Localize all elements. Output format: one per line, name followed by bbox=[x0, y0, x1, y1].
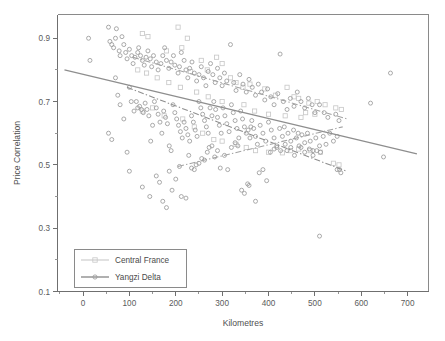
data-point bbox=[308, 139, 312, 143]
x-axis-title: Kilometres bbox=[223, 318, 264, 328]
data-point bbox=[318, 150, 322, 154]
data-point bbox=[199, 58, 203, 62]
data-point bbox=[151, 123, 155, 127]
data-point bbox=[227, 130, 231, 134]
data-point bbox=[272, 136, 276, 140]
data-point bbox=[195, 90, 199, 94]
data-point bbox=[229, 145, 233, 149]
data-point bbox=[161, 54, 165, 58]
data-point bbox=[190, 114, 194, 118]
data-point bbox=[122, 43, 126, 47]
x-tick-label: 200 bbox=[169, 299, 183, 308]
data-point bbox=[129, 100, 133, 104]
chart-figure: 0.10.30.50.70.9 0100200300400500600700 C… bbox=[0, 0, 445, 341]
data-point bbox=[244, 145, 248, 149]
data-point bbox=[248, 136, 252, 140]
data-point bbox=[220, 84, 224, 88]
y-tick-label: 0.5 bbox=[39, 161, 51, 170]
data-point bbox=[201, 131, 205, 135]
data-point bbox=[250, 119, 254, 123]
data-point bbox=[173, 63, 177, 67]
y-tick-label: 0.3 bbox=[39, 224, 51, 233]
y-axis: 0.10.30.50.70.9 bbox=[39, 34, 58, 296]
data-point bbox=[267, 120, 271, 124]
data-point bbox=[233, 119, 237, 123]
data-point bbox=[154, 174, 158, 178]
data-point bbox=[146, 35, 150, 39]
y-tick-label: 0.7 bbox=[39, 98, 51, 107]
x-tick-label: 400 bbox=[262, 299, 276, 308]
data-point bbox=[299, 115, 303, 119]
data-point bbox=[171, 54, 175, 58]
data-point bbox=[127, 47, 131, 51]
data-point bbox=[146, 49, 150, 53]
data-point bbox=[257, 171, 261, 175]
data-point bbox=[139, 54, 143, 58]
data-point bbox=[175, 117, 179, 121]
data-point bbox=[313, 111, 317, 115]
data-point bbox=[107, 25, 111, 29]
data-point bbox=[190, 60, 194, 64]
data-point bbox=[204, 125, 208, 129]
data-point bbox=[188, 139, 192, 143]
data-point bbox=[318, 234, 322, 238]
data-point bbox=[110, 138, 114, 142]
data-point bbox=[167, 80, 171, 84]
data-point bbox=[132, 109, 136, 113]
data-point bbox=[174, 177, 178, 181]
data-point bbox=[148, 195, 152, 199]
data-point bbox=[177, 123, 181, 127]
data-point bbox=[337, 119, 341, 123]
data-point bbox=[204, 84, 208, 88]
data-point bbox=[170, 188, 174, 192]
data-point bbox=[179, 195, 183, 199]
data-point bbox=[212, 100, 216, 104]
data-point bbox=[156, 112, 160, 116]
data-point bbox=[266, 112, 270, 116]
data-point bbox=[283, 142, 287, 146]
data-point bbox=[339, 107, 343, 111]
data-point bbox=[215, 115, 219, 119]
data-point bbox=[114, 27, 118, 31]
data-point bbox=[337, 163, 341, 167]
data-point bbox=[147, 114, 151, 118]
data-point bbox=[253, 149, 257, 153]
data-point bbox=[241, 117, 245, 121]
legend-label: Central France bbox=[115, 256, 170, 265]
data-point bbox=[322, 111, 326, 115]
data-point bbox=[164, 115, 168, 119]
data-point bbox=[229, 103, 233, 107]
data-point bbox=[178, 130, 182, 134]
data-point bbox=[118, 103, 122, 107]
data-point bbox=[205, 150, 209, 154]
data-point bbox=[144, 71, 148, 75]
data-point bbox=[285, 85, 289, 89]
data-point bbox=[143, 101, 147, 105]
data-point bbox=[228, 76, 232, 80]
trend-lines bbox=[64, 57, 416, 171]
data-point bbox=[223, 114, 227, 118]
trend-line bbox=[64, 70, 416, 154]
data-point bbox=[187, 153, 191, 157]
data-point bbox=[161, 199, 165, 203]
data-point bbox=[160, 131, 164, 135]
data-point bbox=[191, 120, 195, 124]
data-point bbox=[184, 196, 188, 200]
data-point bbox=[178, 85, 182, 89]
data-point bbox=[214, 107, 218, 111]
data-point bbox=[228, 43, 232, 47]
data-point bbox=[180, 46, 184, 50]
data-point bbox=[247, 77, 251, 81]
data-point bbox=[306, 96, 310, 100]
data-point bbox=[321, 134, 325, 138]
data-point bbox=[283, 114, 287, 118]
data-point bbox=[326, 115, 330, 119]
x-tick-label: 700 bbox=[401, 299, 415, 308]
data-point bbox=[186, 76, 190, 80]
data-point bbox=[311, 153, 315, 157]
data-point bbox=[179, 50, 183, 54]
data-point bbox=[176, 71, 180, 75]
data-point bbox=[234, 88, 238, 92]
data-point bbox=[155, 76, 159, 80]
data-point bbox=[158, 120, 162, 124]
